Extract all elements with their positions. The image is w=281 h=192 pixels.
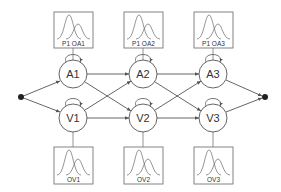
edge-v3-end [226, 98, 262, 112]
coupled-hmm-diagram: A1 A2 A3 V1 V2 V3 P1 OA1 P1 OA2 P1 OA3 [0, 0, 281, 192]
node-a2: A2 [129, 60, 157, 88]
box-label: OV1 [67, 176, 80, 183]
edge-start-v1 [21, 97, 60, 112]
emission-box-oa1: P1 OA1 [54, 12, 93, 48]
node-v1: V1 [59, 104, 87, 132]
edge-start-a1 [21, 81, 60, 97]
end-node-dot [262, 94, 268, 100]
emission-box-oa3: P1 OA3 [194, 12, 233, 48]
node-label: A3 [206, 68, 219, 80]
box-label: OV3 [207, 176, 220, 183]
node-label: A1 [66, 68, 79, 80]
node-label: V2 [136, 112, 149, 124]
node-label: A2 [136, 68, 149, 80]
emission-box-ov2: OV2 [124, 147, 163, 184]
emission-box-oa2: P1 OA2 [124, 12, 163, 48]
start-node-dot [18, 94, 24, 100]
node-v3: V3 [199, 104, 227, 132]
node-label: V3 [206, 112, 219, 124]
edge-v2-a3 [155, 81, 201, 110]
box-label: P1 OA2 [132, 40, 155, 47]
box-label: P1 OA3 [202, 40, 225, 47]
edge-a2-v3 [155, 82, 201, 111]
emission-box-ov1: OV1 [54, 147, 93, 184]
node-v2: V2 [129, 104, 157, 132]
edge-a3-end [226, 80, 262, 96]
box-label: P1 OA1 [62, 40, 85, 47]
edge-a1-v2 [85, 82, 131, 111]
node-label: V1 [66, 112, 79, 124]
node-a1: A1 [59, 60, 87, 88]
node-a3: A3 [199, 60, 227, 88]
edge-v1-a2 [85, 81, 131, 110]
box-label: OV2 [137, 176, 150, 183]
emission-box-ov3: OV3 [194, 147, 233, 184]
